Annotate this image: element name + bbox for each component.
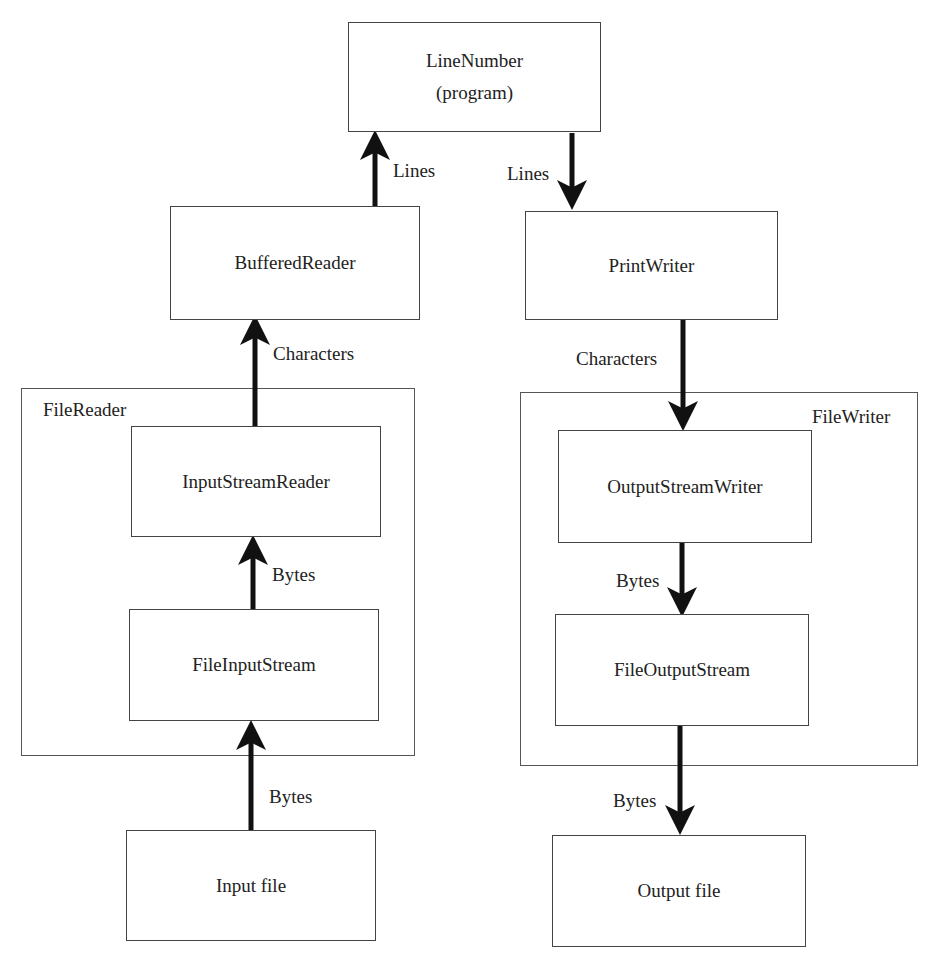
edge-label-characters-right: Characters: [576, 348, 657, 370]
node-line-number-title: LineNumber: [426, 45, 523, 77]
node-output-file: Output file: [552, 835, 806, 947]
node-input-file: Input file: [126, 830, 376, 941]
node-input-stream-reader-label: InputStreamReader: [182, 466, 330, 498]
node-output-stream-writer-label: OutputStreamWriter: [607, 471, 762, 503]
edge-label-bytes-right-inner: Bytes: [616, 570, 659, 592]
edge-label-lines-down: Lines: [507, 163, 549, 185]
node-file-input-stream: FileInputStream: [129, 609, 379, 721]
edge-label-bytes-left-outer: Bytes: [269, 786, 312, 808]
node-print-writer-label: PrintWriter: [609, 250, 695, 282]
node-file-input-stream-label: FileInputStream: [192, 649, 315, 681]
edge-label-bytes-left-inner: Bytes: [272, 564, 315, 586]
node-output-stream-writer: OutputStreamWriter: [558, 430, 812, 543]
edge-label-bytes-right-outer: Bytes: [613, 790, 656, 812]
edge-label-characters-left: Characters: [273, 343, 354, 365]
node-output-file-label: Output file: [638, 875, 721, 907]
node-buffered-reader: BufferedReader: [170, 206, 420, 320]
node-line-number-subtitle: (program): [436, 77, 513, 109]
node-file-output-stream: FileOutputStream: [555, 614, 809, 726]
node-input-stream-reader: InputStreamReader: [131, 426, 381, 537]
edge-label-lines-up: Lines: [393, 160, 435, 182]
node-input-file-label: Input file: [216, 870, 286, 902]
node-buffered-reader-label: BufferedReader: [235, 247, 356, 279]
node-line-number: LineNumber (program): [348, 22, 601, 132]
node-print-writer: PrintWriter: [525, 211, 778, 320]
node-file-output-stream-label: FileOutputStream: [614, 654, 750, 686]
